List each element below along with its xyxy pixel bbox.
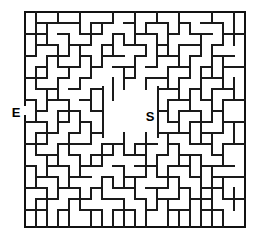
maze-figure: E S [0, 0, 262, 241]
goal-label-s: S [146, 109, 155, 124]
maze-canvas: E S [0, 0, 262, 241]
entrance-label-e: E [12, 105, 21, 120]
